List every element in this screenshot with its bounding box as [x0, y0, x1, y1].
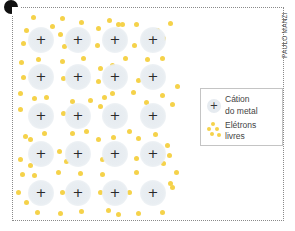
free-electron — [21, 41, 26, 46]
metal-cation: + — [102, 64, 128, 90]
metal-cation: + — [28, 141, 54, 167]
metal-cation: + — [140, 103, 166, 129]
plus-icon: + — [28, 141, 54, 167]
plus-icon: + — [102, 141, 128, 167]
free-electron — [100, 172, 105, 177]
free-electron — [57, 149, 62, 154]
free-electron — [21, 75, 26, 80]
plus-icon: + — [140, 141, 166, 167]
free-electron — [96, 137, 101, 142]
free-electron — [78, 171, 83, 176]
free-electron — [44, 95, 49, 100]
free-electron — [58, 211, 63, 216]
plus-icon: + — [140, 180, 166, 206]
free-electron — [70, 131, 75, 136]
free-electron — [170, 102, 175, 107]
free-electron — [96, 79, 101, 84]
free-electron — [136, 211, 141, 216]
free-electron — [35, 210, 40, 215]
free-electron — [160, 93, 165, 98]
free-electron — [116, 212, 121, 217]
free-electron — [58, 32, 63, 37]
free-electron — [42, 131, 47, 136]
plus-icon: + — [28, 103, 54, 129]
cation-legend-icon: + — [207, 99, 221, 113]
free-electron — [79, 20, 84, 25]
free-electron — [31, 15, 36, 20]
free-electron — [107, 18, 112, 23]
plus-icon: + — [28, 180, 54, 206]
plus-icon: + — [102, 64, 128, 90]
free-electron — [110, 91, 115, 96]
free-electron — [120, 22, 125, 27]
legend-electrons-label-2: livres — [225, 131, 245, 142]
plus-icon: + — [102, 180, 128, 206]
free-electron — [19, 60, 24, 65]
metal-cation: + — [65, 180, 91, 206]
free-electron — [16, 190, 21, 195]
plus-icon: + — [102, 103, 128, 129]
metal-cation: + — [140, 141, 166, 167]
metal-cation: + — [65, 141, 91, 167]
free-electron — [84, 129, 89, 134]
free-electron — [102, 95, 107, 100]
free-electron — [136, 136, 141, 141]
plus-icon: + — [140, 27, 166, 53]
legend-cation-label-1: Cátion — [225, 94, 250, 105]
free-electron — [23, 134, 28, 139]
metal-cation: + — [102, 180, 128, 206]
free-electron — [60, 190, 65, 195]
free-electron — [81, 56, 86, 61]
free-electron — [18, 157, 23, 162]
free-electron — [60, 59, 65, 64]
legend: + Cátion do metal Elétrons livres — [200, 88, 283, 146]
free-electron — [168, 181, 173, 186]
free-electron — [131, 90, 136, 95]
free-electron — [134, 156, 139, 161]
metal-cation: + — [65, 103, 91, 129]
free-electron — [36, 57, 41, 62]
image-credit: PAULO MANZI — [281, 12, 288, 58]
plus-icon: + — [65, 180, 91, 206]
free-electron — [134, 22, 139, 27]
plus-icon: + — [140, 103, 166, 129]
free-electron — [111, 135, 116, 140]
legend-cation-label-2: do metal — [225, 106, 258, 117]
free-electron — [160, 56, 165, 61]
plus-icon: + — [65, 141, 91, 167]
free-electron — [18, 91, 23, 96]
plus-icon: + — [28, 27, 54, 53]
metal-cation: + — [140, 27, 166, 53]
metal-cation: + — [102, 103, 128, 129]
metal-cation: + — [140, 64, 166, 90]
free-electron — [106, 208, 111, 213]
plus-icon: + — [140, 64, 166, 90]
free-electron — [134, 170, 139, 175]
plus-icon: + — [102, 27, 128, 53]
free-electron — [123, 56, 128, 61]
metal-cation: + — [65, 27, 91, 53]
free-electron — [168, 21, 173, 26]
metal-cation: + — [102, 141, 128, 167]
free-electron — [160, 210, 165, 215]
metal-cation: + — [102, 27, 128, 53]
free-electron — [174, 170, 179, 175]
free-electron — [96, 26, 101, 31]
free-electron — [32, 96, 37, 101]
free-electron — [79, 209, 84, 214]
free-electron — [20, 172, 25, 177]
free-electron — [56, 170, 61, 175]
free-electron — [95, 43, 100, 48]
legend-electrons-label-1: Elétrons — [225, 120, 256, 131]
metal-cation: + — [65, 64, 91, 90]
plus-icon: + — [65, 27, 91, 53]
plus-icon: + — [28, 64, 54, 90]
free-electron — [18, 107, 23, 112]
free-electron — [175, 84, 180, 89]
free-electron — [153, 132, 158, 137]
free-electron — [132, 43, 137, 48]
plus-icon: + — [65, 103, 91, 129]
metal-cation: + — [28, 27, 54, 53]
free-electron — [60, 16, 65, 21]
metal-cation: + — [140, 180, 166, 206]
